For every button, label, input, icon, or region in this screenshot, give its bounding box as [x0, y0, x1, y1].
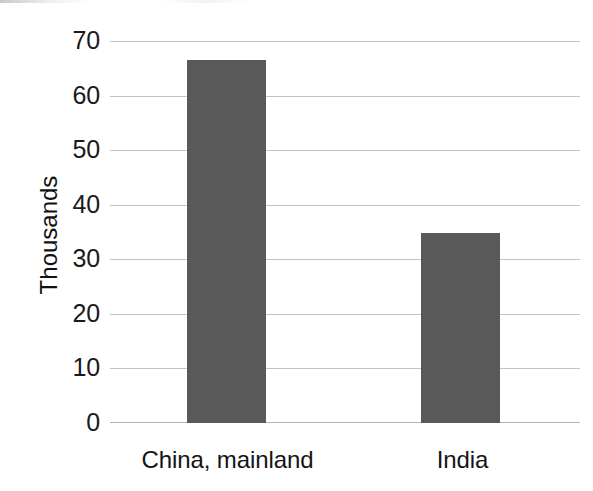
x-label-china-mainland: China, mainland [110, 443, 345, 483]
gridline-70 [110, 41, 580, 42]
bar-chart: 70 60 50 40 30 20 10 0 Thousands China, … [0, 0, 593, 491]
gridline-50 [110, 150, 580, 151]
scan-artifact [0, 0, 593, 3]
gridline-20 [110, 314, 580, 315]
bar-india[interactable] [421, 233, 500, 423]
y-axis-title: Thousands [32, 44, 66, 426]
gridline-40 [110, 205, 580, 206]
bar-china-mainland[interactable] [187, 60, 266, 423]
gridline-10 [110, 368, 580, 369]
gridline-30 [110, 259, 580, 260]
x-axis-category-labels: China, mainland India [110, 443, 580, 483]
gridline-60 [110, 96, 580, 97]
plot-area [110, 41, 580, 423]
x-label-india: India [345, 443, 580, 483]
gridline-baseline-0 [110, 422, 580, 423]
